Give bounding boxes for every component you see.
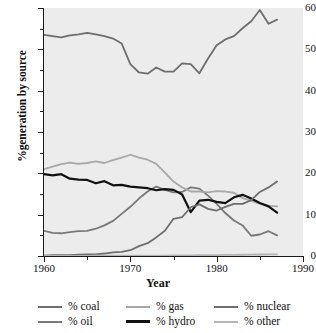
x-tick-minor	[87, 257, 88, 260]
legend-swatch-icon	[214, 321, 238, 323]
legend-swatch-icon	[38, 306, 62, 308]
series-lines	[44, 8, 303, 256]
y-tick-label: 50	[292, 43, 316, 54]
series-line	[44, 10, 277, 74]
y-tick-minor	[40, 153, 43, 154]
y-axis-line	[43, 8, 44, 257]
chart-figure: 0102030405060 1960197019801990 %generati…	[0, 0, 316, 333]
legend-item-coal[interactable]: % coal	[38, 301, 126, 313]
legend-row: % oil% hydro% other	[0, 314, 316, 329]
legend-item-hydro[interactable]: % hydro	[126, 316, 214, 328]
y-tick-label: 40	[292, 85, 316, 96]
y-tick-minor	[40, 235, 43, 236]
x-tick-label: 1990	[283, 263, 316, 274]
x-tick-label: 1980	[197, 263, 237, 274]
y-tick	[38, 215, 43, 216]
y-tick-minor	[40, 194, 43, 195]
legend-swatch-icon	[126, 320, 150, 323]
legend-label: % oil	[68, 316, 93, 328]
chart-legend: % coal% gas% nuclear% oil% hydro% other	[0, 299, 316, 329]
y-tick-minor	[40, 70, 43, 71]
legend-item-nuclear[interactable]: % nuclear	[214, 301, 304, 313]
legend-label: % hydro	[156, 316, 195, 328]
legend-swatch-icon	[214, 306, 238, 308]
y-tick-label: 20	[292, 167, 316, 178]
plot-area	[44, 8, 303, 256]
y-tick	[38, 256, 43, 257]
legend-swatch-icon	[38, 321, 62, 323]
x-tick-minor	[260, 257, 261, 260]
y-tick-label: 30	[292, 126, 316, 137]
y-tick-minor	[40, 111, 43, 112]
y-tick-minor	[40, 29, 43, 30]
y-tick-label: 10	[292, 209, 316, 220]
x-tick-label: 1970	[110, 263, 150, 274]
y-tick	[38, 173, 43, 174]
legend-label: % nuclear	[244, 301, 290, 313]
plot-wrapper: 0102030405060 1960197019801990 %generati…	[0, 0, 316, 292]
y-axis-title: %generation by source	[16, 26, 28, 186]
legend-label: % other	[244, 316, 280, 328]
y-tick	[38, 91, 43, 92]
x-tick-label: 1960	[24, 263, 64, 274]
legend-label: % coal	[68, 301, 100, 313]
legend-item-other[interactable]: % other	[214, 316, 304, 328]
y-tick-label: 60	[292, 2, 316, 13]
x-axis-title: Year	[0, 276, 316, 291]
legend-swatch-icon	[126, 306, 150, 308]
legend-row: % coal% gas% nuclear	[0, 299, 316, 314]
y-tick	[38, 132, 43, 133]
y-tick	[38, 49, 43, 50]
x-tick-minor	[174, 257, 175, 260]
legend-item-gas[interactable]: % gas	[126, 301, 214, 313]
series-line	[44, 174, 277, 212]
y-tick-label: 0	[292, 250, 316, 261]
y-tick	[38, 8, 43, 9]
legend-label: % gas	[156, 301, 184, 313]
legend-item-oil[interactable]: % oil	[38, 316, 126, 328]
series-line	[44, 182, 277, 256]
